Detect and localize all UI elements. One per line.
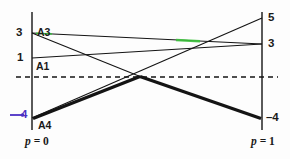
line-a1 — [32, 44, 262, 58]
line-a4-thick — [33, 77, 140, 119]
line-a2-thick — [140, 77, 261, 119]
highlight-segment-right — [176, 40, 200, 41]
line-a3 — [32, 33, 262, 44]
axis-bottom-label-right: p = 1 — [251, 136, 275, 148]
axis-label-left-minus4-value: 4 — [21, 109, 27, 121]
line-ascending-thin — [32, 18, 262, 118]
p-right-equation: = 1 — [257, 135, 275, 147]
axis-label-left-3: 3 — [16, 27, 22, 39]
axis-label-right-5: 5 — [268, 12, 274, 24]
axis-label-right-minus4: –4 — [266, 112, 278, 124]
line-label-a3: A3 — [37, 27, 50, 38]
line-label-a4: A4 — [38, 120, 51, 131]
p-left-equation: = 0 — [31, 135, 49, 147]
line-label-a1: A1 — [36, 61, 49, 72]
axis-bottom-label-left: p = 0 — [25, 136, 49, 148]
axis-label-right-3: 3 — [268, 38, 274, 50]
axis-label-left-1: 1 — [17, 52, 23, 64]
